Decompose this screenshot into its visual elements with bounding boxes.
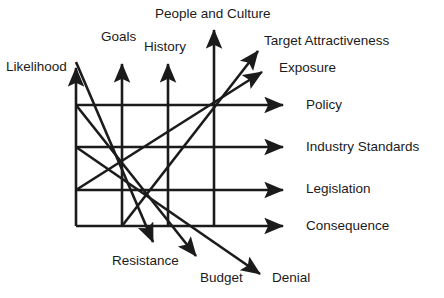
label-denial: Denial [272, 271, 310, 285]
label-target-attractiveness: Target Attractiveness [264, 34, 389, 48]
label-industry-standards: Industry Standards [306, 140, 419, 154]
diagram-canvas: Likelihood Goals History People and Cult… [0, 0, 444, 298]
label-goals: Goals [101, 30, 136, 44]
label-policy: Policy [306, 98, 342, 112]
label-history: History [144, 40, 186, 54]
label-legislation: Legislation [306, 182, 371, 196]
arrow-diagonal-budget [76, 105, 196, 256]
label-resistance: Resistance [112, 254, 179, 268]
label-exposure: Exposure [279, 61, 336, 75]
label-likelihood: Likelihood [6, 60, 67, 74]
label-people-and-culture: People and Culture [155, 7, 271, 21]
arrow-diagonal-target-attractiveness [122, 51, 258, 226]
label-budget: Budget [200, 271, 243, 285]
label-consequence: Consequence [306, 219, 389, 233]
